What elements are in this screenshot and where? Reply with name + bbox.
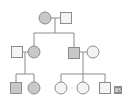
male-unaffected-II-1	[12, 47, 23, 58]
female-unaffected-III-3	[55, 82, 67, 94]
female-affected-III-2	[28, 82, 40, 94]
pedigree-chart	[0, 0, 127, 107]
individual-label: Ⅲ5	[114, 86, 122, 94]
female-unaffected-III-4	[77, 82, 89, 94]
female-affected-II-2	[28, 46, 40, 58]
male-unaffected-III-5	[100, 83, 111, 94]
female-affected-I-1	[39, 12, 51, 24]
male-affected-III-1	[11, 83, 22, 94]
male-unaffected-I-2	[61, 13, 72, 24]
female-unaffected-II-4	[87, 46, 99, 58]
male-affected-II-3	[69, 48, 80, 59]
